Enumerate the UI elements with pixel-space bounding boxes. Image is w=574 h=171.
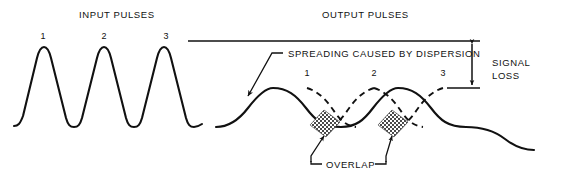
- output-pulse-number-1: 1: [304, 68, 309, 78]
- overlap-leader-left: [311, 136, 324, 162]
- input-pulses-group: INPUT PULSES 1 2 3: [14, 9, 202, 127]
- diagram-canvas: INPUT PULSES 1 2 3 OUTPUT PULSES SIGNAL …: [0, 0, 574, 171]
- output-pulses-title: OUTPUT PULSES: [322, 9, 409, 20]
- output-pulse-number-2: 2: [371, 68, 376, 78]
- overlap-bracket-left: [311, 161, 322, 164]
- pulse-dispersion-diagram: INPUT PULSES 1 2 3 OUTPUT PULSES SIGNAL …: [0, 0, 574, 171]
- input-pulse-number-3: 3: [163, 31, 168, 41]
- input-pulses-title: INPUT PULSES: [79, 9, 155, 20]
- input-pulse-number-2: 2: [101, 31, 106, 41]
- overlap-diamond-1: [310, 110, 340, 137]
- overlap-region-2: [378, 110, 408, 137]
- spreading-dispersion-label: SPREADING CAUSED BY DISPERSION: [288, 48, 481, 59]
- output-waveform: [216, 88, 534, 150]
- overlap-diamond-2: [378, 110, 408, 137]
- overlap-bracket-right: [375, 161, 386, 164]
- overlap-leader-right: [386, 136, 392, 162]
- output-pulses-group: OUTPUT PULSES SIGNAL LOSS SPREADING CAUS…: [188, 9, 534, 170]
- signal-loss-label-line1: SIGNAL: [492, 57, 530, 68]
- overlap-region-1: [310, 110, 340, 137]
- output-pulse-number-3: 3: [440, 68, 445, 78]
- input-waveform: [14, 47, 202, 127]
- input-pulse-number-1: 1: [40, 31, 45, 41]
- signal-loss-label-line2: LOSS: [492, 70, 520, 81]
- overlap-label: OVERLAP: [326, 159, 375, 170]
